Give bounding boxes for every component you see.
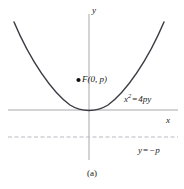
focus-label-args: (0, p): [88, 74, 108, 84]
parabola-plot: [0, 0, 184, 189]
y-axis-label: y: [92, 6, 96, 15]
figure-caption: (a): [0, 168, 184, 178]
focus-point-dot: [76, 78, 80, 82]
x-axis-label: x: [166, 116, 170, 125]
equation-right: 4py: [138, 94, 151, 104]
parabola-figure: y x F(0, p) x2=4py y=−p (a): [0, 0, 184, 189]
focus-point-label: F(0, p): [82, 75, 107, 84]
parabola-equation-label: x2=4py: [124, 95, 151, 104]
directrix-right: −p: [149, 145, 160, 155]
directrix-equation-label: y=−p: [138, 146, 160, 155]
